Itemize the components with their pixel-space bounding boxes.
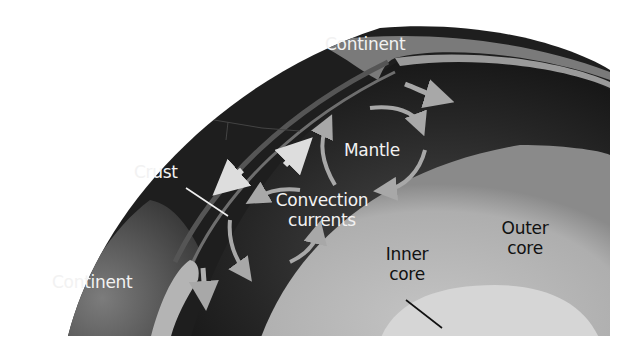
label-mantle: Mantle xyxy=(344,140,400,160)
label-outer-core-line1: Outer xyxy=(490,218,560,238)
label-continent-left: Continent xyxy=(52,272,132,292)
earth-interior-diagram: Continent Mantle Crust Convection curren… xyxy=(0,0,634,348)
diagram-graphic xyxy=(0,0,634,348)
label-continent-top: Continent xyxy=(325,34,405,54)
label-convection-line2: currents xyxy=(262,210,382,230)
label-convection-line1: Convection xyxy=(262,190,382,210)
label-inner-core-line2: core xyxy=(372,264,442,284)
label-crust: Crust xyxy=(134,162,178,182)
earth-section xyxy=(0,0,634,348)
label-inner-core: Inner core xyxy=(372,244,442,284)
label-outer-core: Outer core xyxy=(490,218,560,258)
label-outer-core-line2: core xyxy=(490,238,560,258)
arrow-subduction-down-icon xyxy=(203,268,205,296)
label-convection-currents: Convection currents xyxy=(262,190,382,230)
label-inner-core-line1: Inner xyxy=(372,244,442,264)
